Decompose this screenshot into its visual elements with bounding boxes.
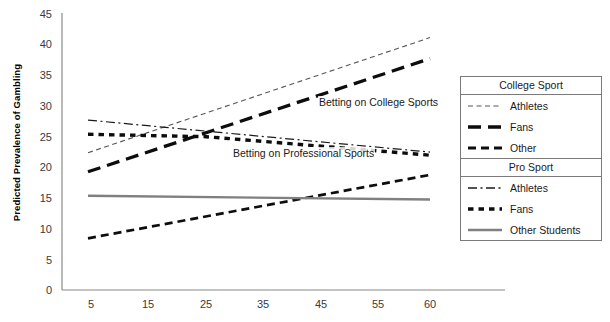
legend-item-label: Other Students bbox=[510, 224, 581, 236]
legend-item-college-fans[interactable]: Fans bbox=[461, 116, 601, 137]
legend-group-header: College Sport bbox=[461, 77, 601, 95]
legend-item-college-athletes[interactable]: Athletes bbox=[461, 95, 601, 116]
legend-item-label: Athletes bbox=[510, 182, 548, 194]
legend-item-college-other[interactable]: Other bbox=[461, 137, 601, 158]
legend-item-pro-fans[interactable]: Fans bbox=[461, 198, 601, 219]
series-line-college-other bbox=[88, 175, 430, 238]
line-style-dash-dot-icon bbox=[467, 182, 503, 194]
chart-legend: College Sport Athletes Fans Other bbox=[460, 76, 602, 241]
legend-group-college-sport: College Sport Athletes Fans Other bbox=[461, 77, 601, 159]
legend-item-label: Other bbox=[510, 142, 536, 154]
line-style-thin-dashed-icon bbox=[467, 100, 503, 112]
legend-item-pro-athletes[interactable]: Athletes bbox=[461, 177, 601, 198]
legend-group-header: Pro Sport bbox=[461, 159, 601, 177]
legend-item-label: Fans bbox=[510, 203, 533, 215]
line-style-solid-icon bbox=[467, 224, 503, 236]
legend-group-pro-sport: Pro Sport Athletes Fans Other Students bbox=[461, 159, 601, 240]
legend-item-label: Fans bbox=[510, 121, 533, 133]
line-style-bold-dashed-icon bbox=[467, 121, 503, 133]
legend-item-label: Athletes bbox=[510, 100, 548, 112]
line-style-dotted-square-icon bbox=[467, 203, 503, 215]
line-style-medium-dashed-icon bbox=[467, 142, 503, 154]
series-line-pro-other-students bbox=[88, 196, 430, 200]
legend-item-pro-other-students[interactable]: Other Students bbox=[461, 219, 601, 240]
annotation-professional-sports: Betting on Professional Sports bbox=[232, 147, 375, 159]
chart-figure: Predicted Prevalence of Gambling 45 40 3… bbox=[0, 0, 610, 322]
annotation-college-sports: Betting on College Sports bbox=[318, 96, 439, 108]
